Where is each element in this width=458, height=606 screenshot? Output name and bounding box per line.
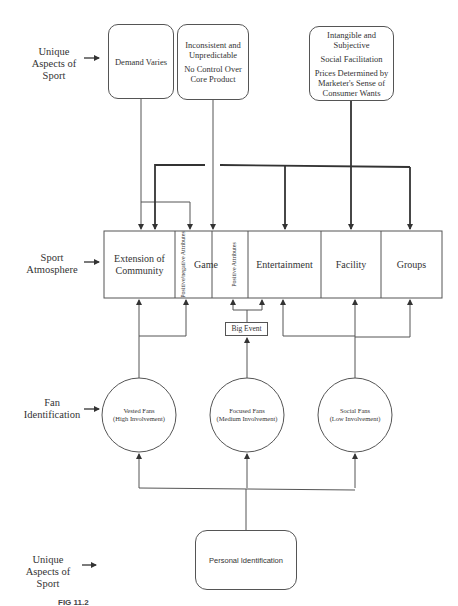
cell-facility: Facility: [321, 231, 381, 298]
aspect-text: Social Facilitation: [320, 54, 382, 64]
fan-social: Social Fans (Low Involvement): [320, 407, 390, 423]
fan-involvement: (Low Involvement): [320, 415, 390, 423]
bus-left: [155, 165, 205, 229]
aspect-text: Inconsistent and Unpredictable: [178, 40, 248, 60]
row-label-unique-aspects-bottom: Unique Aspects of Sport: [16, 554, 80, 590]
social-branch-left: [283, 300, 355, 336]
demand-branch: [141, 202, 190, 229]
aspect-text: Intangible and Subjective: [310, 30, 393, 50]
fan-focused: Focused Fans (Medium Involvement): [212, 407, 282, 423]
aspect-text: Demand Varies: [115, 57, 167, 67]
aspect-text: Prices Determined by Marketer's Sense of…: [310, 68, 393, 98]
figure-caption: FIG 11.2: [58, 598, 89, 606]
cell-positive-attributes: Positive Attributes: [221, 231, 248, 298]
row-label-sport-atmosphere: Sport Atmosphere: [20, 252, 84, 276]
bottom-bus: [139, 488, 355, 490]
positive-text: Positive Attributes: [231, 242, 238, 287]
cell-groups: Groups: [381, 231, 442, 298]
vested-branch: [139, 300, 186, 336]
bigevent-branch: [233, 300, 247, 322]
fan-name: Social Fans: [320, 407, 390, 415]
fan-vested: Vested Fans (High Involvement): [104, 407, 174, 423]
cell-positive-negative: Positive/negative Attributes: [175, 231, 191, 298]
aspect-box-inconsistent: Inconsistent and Unpredictable No Contro…: [177, 24, 249, 100]
fan-involvement: (High Involvement): [104, 415, 174, 423]
cell-game: Game: [191, 231, 221, 298]
aspect-box-demand: Demand Varies: [108, 24, 174, 99]
aspect-box-intangible: Intangible and Subjective Social Facilit…: [309, 26, 394, 101]
row-label-fan-identification: Fan Identification: [20, 397, 84, 421]
bus-main: [220, 165, 410, 167]
row-label-unique-aspects-top: Unique Aspects of Sport: [22, 46, 86, 82]
personal-identification-box: Personal Identification: [195, 530, 297, 590]
fan-name: Vested Fans: [104, 407, 174, 415]
cell-extension-of-community: Extension of Community: [104, 231, 175, 298]
fan-name: Focused Fans: [212, 407, 282, 415]
aspect-text: No Control Over Core Product: [178, 64, 248, 84]
pos-neg-text: Positive/negative Attributes: [180, 231, 187, 298]
big-event-box: Big Event: [225, 322, 268, 336]
fan-involvement: (Medium Involvement): [212, 415, 282, 423]
cell-entertainment: Entertainment: [248, 231, 321, 298]
social-branch-right: [355, 300, 410, 337]
